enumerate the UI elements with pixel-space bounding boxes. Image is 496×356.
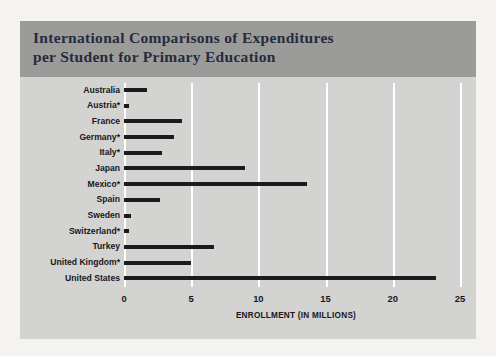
bar-row	[124, 83, 468, 99]
bar-row	[124, 193, 468, 209]
x-axis-title: ENROLLMENT (IN MILLIONS)	[124, 311, 468, 320]
category-label: Italy*	[0, 147, 120, 157]
bar-row	[124, 224, 468, 240]
bar	[124, 182, 307, 186]
category-label: United States	[0, 273, 120, 283]
category-label: Germany*	[0, 132, 120, 142]
bar-row	[124, 161, 468, 177]
chart-panel: International Comparisons of Expenditure…	[20, 21, 476, 339]
category-label: United Kingdom*	[0, 257, 120, 267]
bar	[124, 166, 245, 170]
category-label: Turkey	[0, 241, 120, 251]
x-tick-label: 20	[373, 293, 413, 304]
bar-row	[124, 209, 468, 225]
x-tick-label: 15	[306, 293, 346, 304]
x-tick-label: 0	[104, 293, 144, 304]
category-axis-labels: AustraliaAustria*FranceGermany*Italy*Jap…	[0, 83, 120, 287]
bar	[124, 135, 174, 139]
category-label: Japan	[0, 163, 120, 173]
bar	[124, 214, 131, 218]
chart-title-band: International Comparisons of Expenditure…	[20, 21, 476, 77]
bar-row	[124, 240, 468, 256]
chart-title: International Comparisons of Expenditure…	[33, 28, 453, 66]
bar	[124, 198, 160, 202]
bar	[124, 119, 182, 123]
bar-row	[124, 177, 468, 193]
bar	[124, 88, 147, 92]
x-tick-label: 25	[440, 293, 480, 304]
category-label: Austria*	[0, 100, 120, 110]
bar	[124, 104, 129, 108]
category-label: Switzerland*	[0, 226, 120, 236]
bar	[124, 276, 436, 280]
category-label: Sweden	[0, 210, 120, 220]
bar-row	[124, 146, 468, 162]
category-label: France	[0, 116, 120, 126]
bar-row	[124, 114, 468, 130]
bar	[124, 261, 191, 265]
bar-row	[124, 256, 468, 272]
x-tick-label: 10	[238, 293, 278, 304]
bar	[124, 229, 129, 233]
bar	[124, 245, 214, 249]
bar-row	[124, 99, 468, 115]
bar-row	[124, 271, 468, 287]
category-label: Mexico*	[0, 179, 120, 189]
category-label: Spain	[0, 194, 120, 204]
category-label: Australia	[0, 85, 120, 95]
chart-figure: International Comparisons of Expenditure…	[0, 0, 496, 356]
bar-row	[124, 130, 468, 146]
x-tick-label: 5	[171, 293, 211, 304]
plot-area: AustraliaAustria*FranceGermany*Italy*Jap…	[124, 83, 468, 287]
bar	[124, 151, 162, 155]
